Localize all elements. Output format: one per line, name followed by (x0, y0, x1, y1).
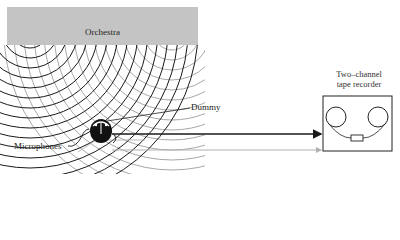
microphones-label: Microphones (14, 141, 62, 151)
dummy-label: Dummy (191, 102, 221, 112)
recorder-title-line2: tape recorder (318, 79, 400, 89)
tape-recorder-icon (323, 96, 392, 151)
recorder-title-line1: Two–channel (318, 69, 400, 79)
recorder-title: Two–channel tape recorder (318, 69, 400, 89)
dummy-head-icon (90, 119, 112, 143)
